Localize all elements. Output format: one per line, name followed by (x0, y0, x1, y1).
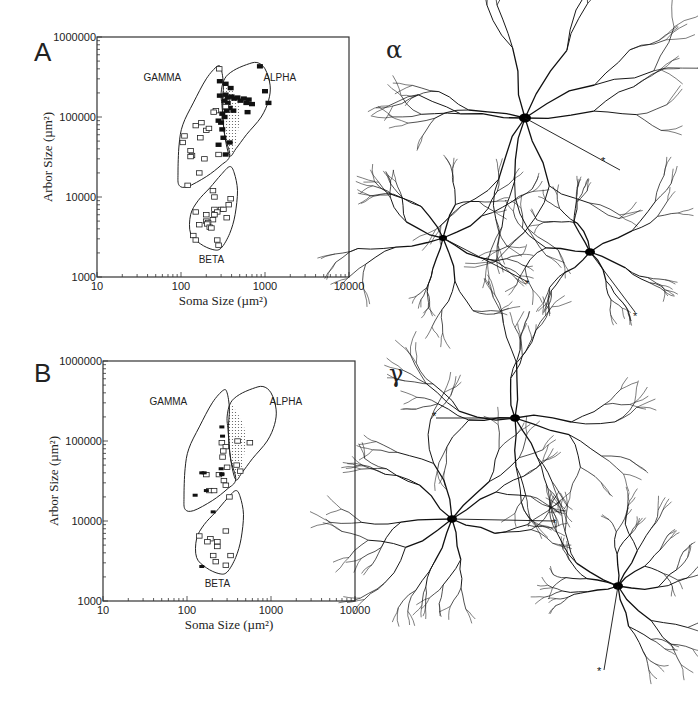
axon-marker: * (601, 155, 606, 167)
axon-marker: * (597, 665, 602, 677)
neuron-drawings: ****** (0, 0, 698, 706)
axon-marker: * (633, 310, 638, 322)
